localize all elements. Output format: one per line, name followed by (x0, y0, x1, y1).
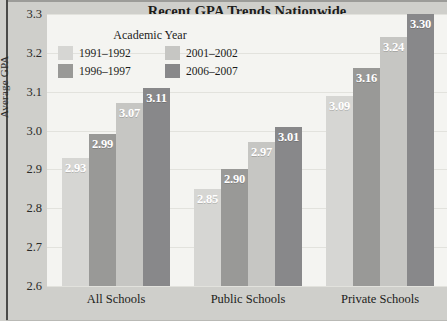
bar-value-label: 2.93 (62, 161, 89, 176)
legend-label: 2006–2007 (186, 65, 238, 77)
bar[interactable]: 3.30 (407, 14, 434, 286)
x-axis-tick-labels: All SchoolsPublic SchoolsPrivate Schools (47, 292, 447, 316)
bar[interactable]: 2.97 (248, 142, 275, 286)
legend-entry[interactable]: 1991–1992 (58, 46, 151, 60)
bar-value-label: 3.07 (116, 106, 143, 121)
bar[interactable]: 3.16 (353, 68, 380, 286)
legend-entry[interactable]: 1996–1997 (58, 64, 151, 78)
bar-value-label: 3.09 (326, 99, 353, 114)
legend-entries: 1991–19922001–20021996–19972006–2007 (58, 46, 258, 78)
bar-value-label: 3.16 (353, 71, 380, 86)
legend-swatch-icon (165, 64, 180, 78)
legend-swatch-icon (165, 46, 180, 60)
bar[interactable]: 3.24 (380, 37, 407, 286)
y-axis-tick: 3.3 (6, 7, 42, 22)
x-axis-tick: Private Schools (341, 292, 419, 307)
bar[interactable]: 2.90 (221, 169, 248, 286)
y-axis-tick: 3.0 (6, 123, 42, 138)
bar-value-label: 2.97 (248, 145, 275, 160)
chart-legend: Academic Year 1991–19922001–20021996–199… (58, 28, 258, 78)
y-axis-tick: 2.9 (6, 162, 42, 177)
bar[interactable]: 2.99 (89, 134, 116, 286)
legend-title: Academic Year (66, 28, 234, 43)
bar[interactable]: 3.07 (116, 103, 143, 286)
bar[interactable]: 2.93 (62, 158, 89, 286)
bar-group: 3.093.163.243.30 (326, 14, 434, 286)
bar-value-label: 2.99 (89, 137, 116, 152)
legend-label: 1991–1992 (79, 47, 131, 59)
bar-value-label: 3.30 (407, 17, 434, 32)
legend-label: 2001–2002 (186, 47, 238, 59)
y-axis-tick: 2.7 (6, 240, 42, 255)
legend-entry[interactable]: 2006–2007 (165, 64, 258, 78)
y-axis-tick: 3.2 (6, 45, 42, 60)
figure-top-border (6, 0, 447, 2)
bar-value-label: 3.01 (275, 130, 302, 145)
x-axis-tick: All Schools (87, 292, 146, 307)
x-axis-tick: Public Schools (211, 292, 286, 307)
y-axis-tick: 3.1 (6, 84, 42, 99)
bar[interactable]: 3.09 (326, 96, 353, 286)
bar[interactable]: 3.11 (143, 88, 170, 286)
y-axis-tick-labels: 3.33.23.13.02.92.82.72.6 (0, 14, 42, 286)
bar[interactable]: 2.85 (194, 189, 221, 286)
legend-entry[interactable]: 2001–2002 (165, 46, 258, 60)
bar-value-label: 3.11 (143, 91, 170, 106)
legend-label: 1996–1997 (79, 65, 131, 77)
bar-value-label: 2.85 (194, 192, 221, 207)
bar-value-label: 2.90 (221, 172, 248, 187)
gridline (47, 286, 447, 287)
y-axis-tick: 2.8 (6, 201, 42, 216)
y-axis-tick: 2.6 (6, 279, 42, 294)
legend-swatch-icon (58, 46, 73, 60)
bar-value-label: 3.24 (380, 40, 407, 55)
chart-figure: Recent GPA Trends Nationwide Average GPA… (0, 0, 447, 321)
bar[interactable]: 3.01 (275, 127, 302, 286)
legend-swatch-icon (58, 64, 73, 78)
